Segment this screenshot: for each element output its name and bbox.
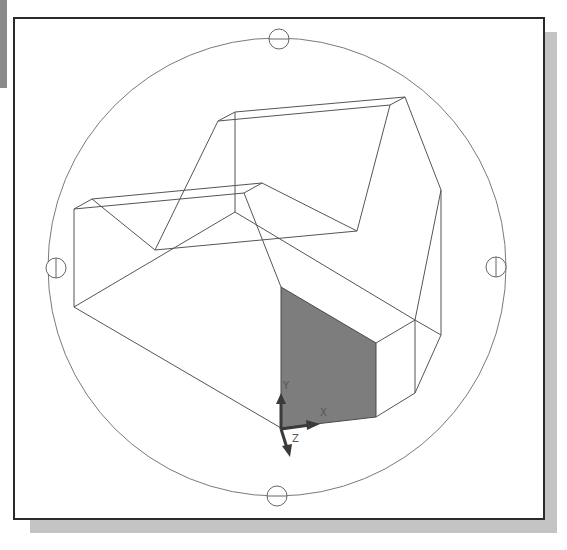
ucs-y-label: Y [282, 380, 290, 391]
ucs-z-axis [281, 429, 287, 448]
model-canvas[interactable]: Y X Z [0, 0, 567, 550]
arcball-circle[interactable] [48, 38, 506, 496]
ucs-z-label: Z [292, 433, 299, 444]
ucs-z-arrowhead [282, 444, 292, 457]
selected-face[interactable] [281, 287, 376, 428]
wireframe-model[interactable] [74, 97, 441, 428]
ucs-x-label: X [320, 407, 327, 418]
